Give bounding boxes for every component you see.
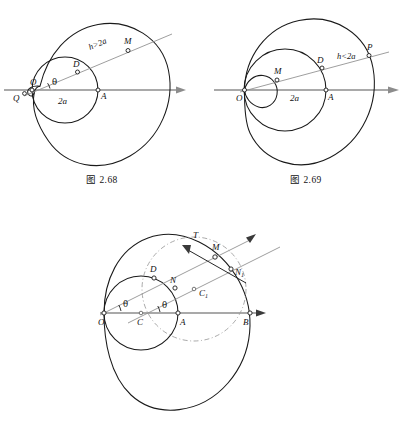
radius-vector-ray xyxy=(240,52,389,92)
diameter-label-2a: 2a xyxy=(290,93,300,103)
point-P-marker xyxy=(367,54,371,58)
figure-2-70: θ θ T O C A B D N M C 1 N 1 xyxy=(60,193,360,438)
point-P-label: P xyxy=(366,42,373,52)
point-C-marker xyxy=(139,311,143,315)
point-C1-subscript: 1 xyxy=(205,293,208,299)
angle-label-theta-2: θ xyxy=(162,300,167,310)
point-O-label: O xyxy=(30,77,37,87)
point-D-marker xyxy=(152,276,156,280)
point-D-label: D xyxy=(72,59,80,69)
point-O-label: O xyxy=(236,93,243,103)
point-M-label: M xyxy=(123,36,132,46)
figure-2-68-canvas: h>2a 2a θ O Q D M A xyxy=(0,0,204,200)
polar-axis-arrowhead xyxy=(176,87,186,94)
point-A-label: A xyxy=(179,317,186,327)
figure-2-70-canvas: θ θ T O C A B D N M C 1 N 1 xyxy=(60,193,360,438)
point-M-marker xyxy=(126,49,130,53)
polar-axis-arrowhead xyxy=(256,310,266,317)
figure-2-69: h<2a 2a O M D P A xyxy=(204,0,408,200)
point-N1-marker xyxy=(229,267,233,271)
length-label-h-lt-2a: h<2a xyxy=(337,51,356,61)
point-D-label: D xyxy=(149,264,157,274)
point-M-label: M xyxy=(273,66,282,76)
point-A-marker xyxy=(96,88,100,92)
diameter-label-2a: 2a xyxy=(58,96,68,106)
point-C-label: C xyxy=(137,317,144,327)
point-D-marker xyxy=(320,66,324,70)
point-N1-subscript: 1 xyxy=(241,272,244,278)
limacon-inner-loop xyxy=(245,75,278,107)
point-B-marker xyxy=(248,311,252,315)
point-A-label: A xyxy=(100,91,107,101)
point-A-marker xyxy=(176,311,180,315)
angle-label-theta: θ xyxy=(52,77,57,87)
point-Q-label: Q xyxy=(13,93,20,103)
point-C1-marker xyxy=(192,287,196,291)
point-N-marker xyxy=(173,286,177,290)
angle-arc-theta-1 xyxy=(119,305,121,311)
point-D-marker xyxy=(76,70,80,74)
point-M-label: M xyxy=(211,242,220,252)
point-D-label: D xyxy=(316,55,324,65)
figure-2-69-canvas: h<2a 2a O M D P A xyxy=(204,0,408,200)
point-N-label: N xyxy=(169,275,177,285)
point-A-label: A xyxy=(327,92,334,102)
point-Q-marker xyxy=(23,92,27,96)
point-O-label: O xyxy=(98,317,105,327)
figure-2-68-caption: 图 2.68 xyxy=(0,172,204,186)
angle-label-theta-1: θ xyxy=(123,299,128,309)
point-M-marker xyxy=(275,78,279,82)
point-O-marker xyxy=(102,311,106,315)
limacon-outer-curve xyxy=(244,19,374,165)
tangent-label-T: T xyxy=(193,230,199,240)
figure-2-68: h>2a 2a θ O Q D M A xyxy=(0,0,204,200)
point-O-marker xyxy=(30,88,34,92)
tangent-arrowhead xyxy=(182,245,191,254)
figure-2-69-caption: 图 2.69 xyxy=(204,172,408,186)
polar-axis-arrowhead xyxy=(388,87,399,94)
point-M-marker xyxy=(213,255,217,259)
point-O-marker xyxy=(243,88,247,92)
length-label-h-gt-2a: h>2a xyxy=(87,35,108,51)
point-B-label: B xyxy=(243,317,249,327)
